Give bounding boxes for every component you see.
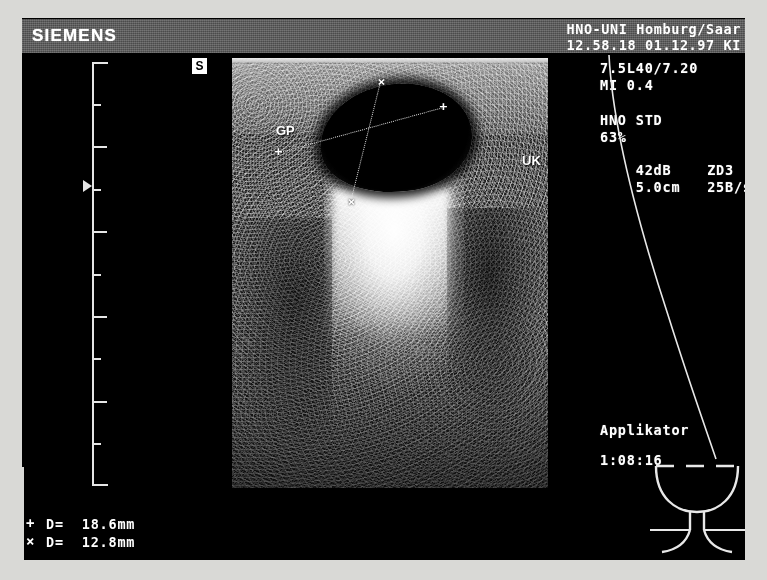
param-transducer: 7.5L40/7.20 (600, 60, 698, 76)
caliper-marker-b-start[interactable]: × (375, 75, 388, 88)
depth-tick (94, 231, 107, 233)
measurement-distance-1: D= 18.6mm (46, 516, 135, 532)
depth-tick (94, 189, 101, 191)
param-spacer2 (680, 179, 707, 195)
param-depth-value: 5.0cm (636, 179, 681, 195)
measurement-distance-2: D= 12.8mm (46, 534, 135, 550)
institution-label: HNO-UNI Homburg/Saar (566, 21, 741, 37)
depth-scale-ruler (92, 62, 118, 486)
applicator-label: Applikator (600, 422, 689, 438)
ultrasound-screenshot: SIEMENS HNO-UNI Homburg/Saar 12.58.18 01… (0, 0, 767, 580)
depth-scale-cap-bottom (92, 484, 108, 486)
image-margin-notch (0, 467, 24, 580)
caliper-marker-a-end[interactable]: + (437, 100, 450, 113)
image-label-gp: GP (276, 123, 295, 138)
far-field-attenuation (232, 318, 548, 488)
cross-caliper-icon: × (26, 533, 34, 549)
depth-tick (94, 146, 107, 148)
orientation-marker-s: S (192, 58, 207, 74)
depth-tick (94, 443, 101, 445)
image-margin-bottom (0, 560, 767, 580)
plus-caliper-icon: + (26, 515, 34, 531)
caliper-marker-a-start[interactable]: + (272, 145, 285, 158)
posterior-acoustic-enhancement-core (332, 188, 450, 338)
focal-zone-marker (83, 180, 92, 192)
param-mechanical-index: MI 0.4 (600, 77, 654, 93)
param-depth: 5.0cm 25B/s (600, 163, 752, 211)
near-field-skin-line (232, 58, 548, 66)
depth-tick (94, 316, 107, 318)
timestamp-label: 12.58.18 01.12.97 KI (566, 37, 741, 53)
depth-tick (94, 358, 101, 360)
siemens-logo: SIEMENS (32, 26, 117, 46)
depth-tick (94, 401, 107, 403)
caliper-marker-b-end[interactable]: × (345, 195, 358, 208)
depth-scale-cap-top (92, 62, 108, 64)
depth-tick (94, 274, 101, 276)
depth-tick (94, 104, 101, 106)
image-margin-right (745, 0, 767, 580)
param-preset: HNO STD (600, 112, 663, 128)
image-label-uk: UK (522, 153, 541, 168)
param-gain: 63% (600, 129, 627, 145)
ultrasound-image-sector[interactable]: + + × × GP UK (232, 58, 548, 488)
applicator-probe-icon (650, 452, 745, 557)
image-margin-top (0, 0, 767, 18)
